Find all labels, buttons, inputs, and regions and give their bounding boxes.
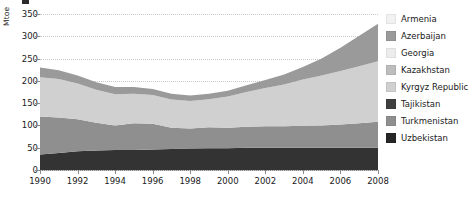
x-tick-label: 2008 [358,176,398,186]
x-tick-mark [265,170,266,174]
legend-item-label: Georgia [401,48,434,58]
x-tick-label: 2006 [320,176,360,186]
y-tick-label: 0 [6,165,38,175]
legend-swatch-icon [386,48,396,58]
legend-item-kyrgyz-republic[interactable]: Kyrgyz Republic [386,79,468,94]
x-tick-label: 1992 [58,176,98,186]
legend-item-turkmenistan[interactable]: Turkmenistan [386,113,468,128]
x-tick-label: 1998 [170,176,210,186]
legend-item-label: Uzbekistan [401,133,448,143]
plot-area [40,14,378,170]
x-tick-label: 1996 [133,176,173,186]
legend-item-georgia[interactable]: Georgia [386,45,468,60]
x-tick-label: 2002 [245,176,285,186]
x-axis-line [40,170,378,171]
y-tick-label: 350 [6,9,38,19]
legend-item-armenia[interactable]: Armenia [386,11,468,26]
y-tick-label: 300 [6,31,38,41]
legend-item-label: Azerbaijan [401,31,446,41]
x-tick-mark [378,170,379,174]
legend-swatch-icon [386,116,396,126]
y-tick-label: 200 [6,76,38,86]
y-tick-label: 250 [6,54,38,64]
x-tick-label: 1990 [20,176,60,186]
legend-item-label: Kazakhstan [401,65,450,75]
y-axis-ticks: 050100150200250300350 [0,0,38,198]
legend-item-tajikistan[interactable]: Tajikistan [386,96,468,111]
legend: ArmeniaAzerbaijanGeorgiaKazakhstanKyrgyz… [386,11,468,145]
legend-item-label: Armenia [401,14,437,24]
legend-swatch-icon [386,65,396,75]
x-tick-mark [153,170,154,174]
x-tick-mark [115,170,116,174]
legend-swatch-icon [386,31,396,41]
legend-swatch-icon [386,99,396,109]
x-tick-mark [303,170,304,174]
y-tick-label: 150 [6,98,38,108]
area-series-uzbekistan [40,148,378,170]
legend-swatch-icon [386,14,396,24]
legend-item-uzbekistan[interactable]: Uzbekistan [386,130,468,145]
legend-item-azerbaijan[interactable]: Azerbaijan [386,28,468,43]
x-tick-label: 1994 [95,176,135,186]
x-tick-mark [190,170,191,174]
x-tick-mark [40,170,41,174]
x-tick-label: 2004 [283,176,323,186]
stacked-area-chart: Mtoe 050100150200250300350 1990199219941… [0,0,469,198]
legend-item-label: Turkmenistan [401,116,458,126]
x-tick-label: 2000 [208,176,248,186]
x-tick-mark [228,170,229,174]
x-tick-mark [78,170,79,174]
area-series-group [40,14,378,170]
legend-swatch-icon [386,82,396,92]
legend-item-kazakhstan[interactable]: Kazakhstan [386,62,468,77]
legend-swatch-icon [386,133,396,143]
x-tick-mark [340,170,341,174]
legend-item-label: Tajikistan [401,99,440,109]
y-tick-label: 50 [6,143,38,153]
y-tick-label: 100 [6,120,38,130]
legend-item-label: Kyrgyz Republic [401,82,468,92]
